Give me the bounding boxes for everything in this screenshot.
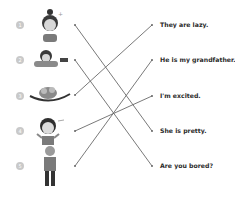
sentence-1: They are lazy.	[160, 21, 208, 28]
sentence-2: He is my grandfather.	[160, 56, 235, 63]
sentence-3: I'm excited.	[160, 92, 201, 99]
matching-lines	[0, 0, 235, 204]
sentence-4: She is pretty.	[160, 127, 207, 134]
sentence-5: Are you bored?	[160, 162, 213, 169]
